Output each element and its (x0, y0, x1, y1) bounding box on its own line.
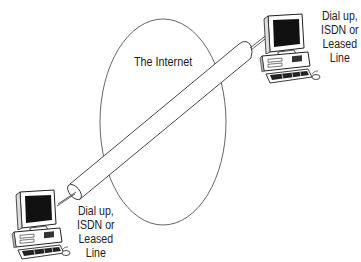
label-line: Dial up, (321, 9, 359, 23)
label-line: ISDN or (77, 218, 115, 232)
label-line: Dial up, (77, 204, 115, 218)
internet-label: The Internet (134, 55, 192, 69)
vpn-diagram (0, 0, 361, 262)
computer-icon-bottom-left (12, 190, 70, 259)
computer-icon-top-right (260, 14, 320, 83)
connection-label-bottom-left: Dial up, ISDN or Leased Line (77, 204, 115, 260)
label-line: Line (77, 246, 115, 260)
connection-label-top-right: Dial up, ISDN or Leased Line (321, 9, 359, 65)
label-line: ISDN or (321, 23, 359, 37)
label-line: Leased (77, 232, 115, 246)
label-line: Leased (321, 37, 359, 51)
label-line: Line (321, 51, 359, 65)
